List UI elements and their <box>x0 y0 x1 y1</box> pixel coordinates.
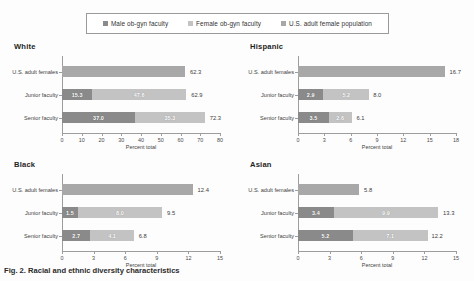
x-axis-tick-label: 15 <box>217 255 223 261</box>
bar-total-value: 8.0 <box>373 92 381 98</box>
x-axis-tick-label: 12 <box>421 255 427 261</box>
bar-row[interactable]: Junior faculty15.347.662.9 <box>62 89 186 100</box>
chart-panel-asian: Asian U.S. adult females5.8Junior facult… <box>240 160 472 272</box>
bar-segment[interactable]: 5.2 <box>323 89 369 100</box>
bar-segment[interactable]: 1.5 <box>62 207 78 218</box>
category-label: Junior faculty <box>25 92 58 98</box>
bar-total-value: 62.9 <box>191 92 202 98</box>
chart-legend: Male ob-gyn facultyFemale ob-gyn faculty… <box>86 13 389 34</box>
bar-segment[interactable] <box>298 184 359 195</box>
bar-segment[interactable]: 3.4 <box>298 207 334 218</box>
bar-segment-value: 8.0 <box>116 210 124 216</box>
x-axis-tick-label: 9 <box>376 137 379 143</box>
bar-segment[interactable]: 2.7 <box>62 230 90 241</box>
x-axis-title: Percent total <box>362 144 392 150</box>
legend-item[interactable]: Female ob-gyn faculty <box>188 20 261 27</box>
bar-row[interactable]: Junior faculty3.49.913.3 <box>298 207 438 218</box>
x-axis-tick-label: 3 <box>328 255 331 261</box>
bar-segment[interactable]: 2.9 <box>298 89 323 100</box>
x-axis-tick-label: 50 <box>158 137 164 143</box>
category-label: U.S. adult females <box>12 69 58 75</box>
figure-canvas: Male ob-gyn facultyFemale ob-gyn faculty… <box>0 0 474 281</box>
x-axis-tick-label: 9 <box>391 255 394 261</box>
bar-segment[interactable]: 4.1 <box>90 230 133 241</box>
bar-segment-value: 3.5 <box>309 115 317 121</box>
bar-segment[interactable] <box>298 66 445 77</box>
x-axis-tick-label: 6 <box>349 137 352 143</box>
legend-label: U.S. adult female population <box>289 20 372 27</box>
x-axis-tick <box>200 134 201 136</box>
x-axis-tick-label: 6 <box>124 255 127 261</box>
x-axis-tick <box>393 252 394 254</box>
x-axis-tick-label: 0 <box>61 255 64 261</box>
bar-row[interactable]: Junior faculty2.95.28.0 <box>298 89 369 100</box>
bar-segment[interactable]: 3.5 <box>298 112 329 123</box>
bar-segment[interactable]: 47.6 <box>92 89 186 100</box>
x-axis-tick-label: 40 <box>138 137 144 143</box>
bar-total-value: 62.3 <box>190 69 201 75</box>
bar-total-value: 13.3 <box>443 210 454 216</box>
bar-row[interactable]: Senior faculty5.27.112.2 <box>298 230 428 241</box>
chart-panel-black: Black U.S. adult females12.4Junior facul… <box>4 160 236 272</box>
bar-segment[interactable]: 15.3 <box>62 89 92 100</box>
bar-segment-value: 35.3 <box>164 115 175 121</box>
bar-row[interactable]: U.S. adult females12.4 <box>62 184 193 195</box>
bar-total-value: 5.8 <box>364 187 372 193</box>
x-axis-tick <box>121 134 122 136</box>
x-axis: 03691215Percent total <box>62 252 220 266</box>
bar-row[interactable]: Senior faculty3.52.66.1 <box>298 112 352 123</box>
bar-row[interactable]: Junior faculty1.58.09.5 <box>62 207 162 218</box>
bar-segment[interactable] <box>62 66 185 77</box>
bar-segment[interactable]: 9.9 <box>334 207 438 218</box>
legend-item[interactable]: Male ob-gyn faculty <box>103 20 168 27</box>
figure-caption: Fig. 2. Racial and ethnic diversity char… <box>4 266 304 275</box>
bar-segment[interactable] <box>62 184 193 195</box>
bar-segment-value: 5.2 <box>321 233 329 239</box>
x-axis-tick-label: 60 <box>178 137 184 143</box>
bar-segment-value: 5.2 <box>342 92 350 98</box>
bar-segment[interactable]: 8.0 <box>78 207 162 218</box>
x-axis-tick <box>298 252 299 254</box>
bar-segment-value: 37.0 <box>93 115 104 121</box>
x-axis-tick-label: 20 <box>99 137 105 143</box>
panel-title: Black <box>14 160 35 169</box>
x-axis-tick <box>298 134 299 136</box>
bar-segment-value: 47.6 <box>134 92 145 98</box>
x-axis-tick <box>377 134 378 136</box>
x-axis-tick-label: 18 <box>453 137 459 143</box>
bar-segment[interactable]: 7.1 <box>353 230 428 241</box>
plot-area: U.S. adult females5.8Junior faculty3.49.… <box>298 174 456 252</box>
bar-row[interactable]: Senior faculty2.74.16.8 <box>62 230 134 241</box>
bar-segment[interactable]: 35.3 <box>135 112 205 123</box>
bar-row[interactable]: U.S. adult females16.7 <box>298 66 445 77</box>
bar-segment[interactable]: 2.6 <box>329 112 352 123</box>
x-axis-tick-label: 0 <box>297 255 300 261</box>
category-label: Senior faculty <box>24 233 58 239</box>
bar-total-value: 9.5 <box>167 210 175 216</box>
x-axis-tick <box>188 252 189 254</box>
x-axis-tick <box>403 134 404 136</box>
x-axis-tick <box>430 134 431 136</box>
bar-segment[interactable]: 5.2 <box>298 230 353 241</box>
legend-item[interactable]: U.S. adult female population <box>281 20 372 27</box>
x-axis-tick <box>125 252 126 254</box>
plot-area: U.S. adult females62.3Junior faculty15.3… <box>62 56 220 134</box>
bar-row[interactable]: Senior faculty37.035.372.3 <box>62 112 205 123</box>
x-axis-tick-label: 9 <box>155 255 158 261</box>
chart-panel-hispanic: Hispanic U.S. adult females16.7Junior fa… <box>240 42 472 154</box>
x-axis-tick <box>361 252 362 254</box>
bar-segment-value: 7.1 <box>386 233 394 239</box>
bar-row[interactable]: U.S. adult females5.8 <box>298 184 359 195</box>
bar-row[interactable]: U.S. adult females62.3 <box>62 66 185 77</box>
x-axis-tick <box>62 252 63 254</box>
bar-segment[interactable]: 37.0 <box>62 112 135 123</box>
legend-label: Female ob-gyn faculty <box>196 20 261 27</box>
x-axis-tick <box>324 134 325 136</box>
x-axis-tick <box>161 134 162 136</box>
x-axis-tick-label: 15 <box>427 137 433 143</box>
x-axis-title: Percent total <box>126 144 156 150</box>
x-axis-tick-label: 12 <box>400 137 406 143</box>
bar-total-value: 6.8 <box>139 233 147 239</box>
bar-segment-value: 4.1 <box>108 233 116 239</box>
x-axis-tick <box>220 252 221 254</box>
